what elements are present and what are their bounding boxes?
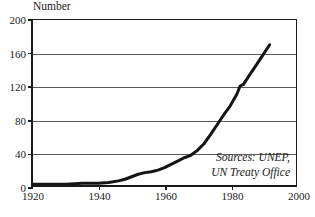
source-note-line-2: UN Treaty Office — [211, 165, 290, 180]
x-tick-label: 1980 — [222, 191, 244, 202]
source-note: Sources: UNEP, UN Treaty Office — [211, 150, 290, 179]
x-tick-label: 1960 — [155, 191, 177, 202]
y-tick-label: 40 — [15, 149, 26, 160]
y-tick-label: 160 — [10, 48, 27, 59]
y-tick-mark — [28, 187, 33, 189]
y-tick-label: 200 — [10, 15, 27, 26]
chart-container: Number 04080120160200 192019401960198020… — [0, 0, 315, 217]
x-tick-label: 1920 — [22, 191, 44, 202]
y-axis-label: Number — [33, 0, 71, 13]
x-tick-label: 1940 — [89, 191, 111, 202]
x-tick-label: 2000 — [288, 191, 310, 202]
y-tick-label: 80 — [15, 115, 26, 126]
plot-area: 04080120160200 19201940196019802000 Sour… — [31, 19, 297, 187]
y-tick-label: 120 — [10, 82, 27, 93]
source-note-line-1: Sources: UNEP, — [211, 150, 290, 165]
